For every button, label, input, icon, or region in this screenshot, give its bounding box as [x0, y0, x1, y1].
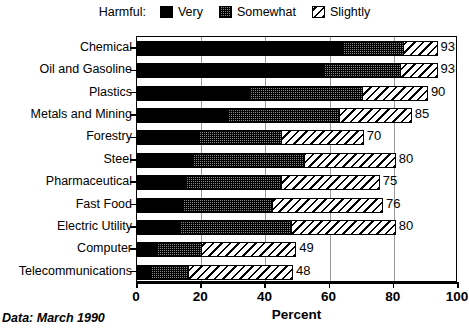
segment-slightly[interactable]	[305, 154, 395, 167]
segment-very[interactable]	[138, 243, 157, 256]
category-label: Steel	[2, 148, 132, 170]
bar-row	[137, 171, 456, 193]
category-label: Plastics	[2, 81, 132, 103]
category-label: Telecommunications	[2, 260, 132, 282]
legend-entry-somewhat: Somewhat	[219, 5, 296, 19]
segment-somewhat[interactable]	[228, 109, 340, 122]
bar-row	[137, 126, 456, 148]
segment-slightly[interactable]	[282, 176, 378, 189]
bar-total-label: 80	[399, 148, 413, 170]
segment-very[interactable]	[138, 266, 151, 279]
segment-slightly[interactable]	[202, 243, 295, 256]
x-axis-title: Percent	[136, 307, 457, 322]
stacked-bar[interactable]	[137, 108, 412, 123]
segment-slightly[interactable]	[363, 87, 427, 100]
category-label: Pharmaceutical	[2, 170, 132, 192]
stacked-bar[interactable]	[137, 242, 296, 257]
category-label: Oil and Gasoline	[2, 58, 132, 80]
segment-very[interactable]	[138, 109, 228, 122]
x-axis-line	[136, 282, 457, 284]
segment-slightly[interactable]	[189, 266, 292, 279]
segment-very[interactable]	[138, 199, 183, 212]
category-label: Electric Utility	[2, 215, 132, 237]
segment-slightly[interactable]	[292, 221, 395, 234]
segment-somewhat[interactable]	[199, 131, 282, 144]
segment-somewhat[interactable]	[193, 154, 305, 167]
segment-slightly[interactable]	[340, 109, 411, 122]
segment-very[interactable]	[138, 64, 324, 77]
x-tick-100	[457, 282, 459, 288]
category-label: Metals and Mining	[2, 103, 132, 125]
segment-somewhat[interactable]	[157, 243, 202, 256]
bar-total-label: 93	[441, 36, 455, 58]
gray-stipple-swatch-icon	[219, 6, 232, 18]
x-tick-label: 60	[321, 289, 336, 304]
bar-row	[137, 82, 456, 104]
segment-somewhat[interactable]	[250, 87, 362, 100]
segment-slightly[interactable]	[273, 199, 382, 212]
bar-row	[137, 104, 456, 126]
x-tick-label: 20	[193, 289, 208, 304]
bar-total-label: 70	[367, 125, 381, 147]
bar-row	[137, 59, 456, 81]
x-tick-label: 100	[446, 289, 469, 304]
legend-entry-slightly: Slightly	[312, 5, 370, 19]
category-label: Computer	[2, 237, 132, 259]
x-tick-label: 80	[385, 289, 400, 304]
segment-very[interactable]	[138, 131, 199, 144]
stacked-bar[interactable]	[137, 153, 396, 168]
legend-label-somewhat: Somewhat	[237, 5, 296, 19]
segment-slightly[interactable]	[404, 42, 436, 55]
stacked-bar-chart: ChemicalOil and GasolinePlasticsMetals a…	[0, 24, 469, 299]
bar-total-label: 49	[299, 237, 313, 259]
segment-very[interactable]	[138, 42, 343, 55]
bar-total-label: 75	[383, 170, 397, 192]
x-tick-label: 40	[257, 289, 272, 304]
x-tick-40	[264, 282, 266, 288]
solid-black-swatch-icon	[160, 6, 173, 18]
bar-row	[137, 238, 456, 260]
category-label: Forestry	[2, 125, 132, 147]
bar-total-label: 76	[386, 193, 400, 215]
source-note: Data: March 1990	[2, 311, 105, 325]
segment-very[interactable]	[138, 154, 193, 167]
bar-total-label: 48	[296, 260, 310, 282]
stacked-bar[interactable]	[137, 130, 364, 145]
segment-somewhat[interactable]	[183, 199, 273, 212]
segment-somewhat[interactable]	[151, 266, 190, 279]
stacked-bar[interactable]	[137, 41, 438, 56]
legend-label-slightly: Slightly	[330, 5, 370, 19]
segment-somewhat[interactable]	[324, 64, 401, 77]
stacked-bar[interactable]	[137, 198, 383, 213]
segment-slightly[interactable]	[282, 131, 362, 144]
stacked-bar[interactable]	[137, 220, 396, 235]
x-tick-label: 0	[132, 289, 140, 304]
x-tick-0	[136, 282, 138, 288]
segment-very[interactable]	[138, 87, 250, 100]
legend-label-very: Very	[178, 5, 203, 19]
stacked-bar[interactable]	[137, 265, 293, 280]
bar-row	[137, 37, 456, 59]
segment-somewhat[interactable]	[180, 221, 292, 234]
bar-total-label: 93	[441, 58, 455, 80]
category-axis: ChemicalOil and GasolinePlasticsMetals a…	[0, 36, 132, 282]
segment-slightly[interactable]	[401, 64, 436, 77]
segment-somewhat[interactable]	[186, 176, 282, 189]
category-label: Chemical	[2, 36, 132, 58]
legend-title: Harmful:	[99, 5, 146, 19]
bar-row	[137, 194, 456, 216]
category-label: Fast Food	[2, 193, 132, 215]
bar-total-label: 80	[399, 215, 413, 237]
stacked-bar[interactable]	[137, 175, 380, 190]
x-tick-60	[329, 282, 331, 288]
segment-very[interactable]	[138, 221, 180, 234]
bar-total-label: 90	[431, 81, 445, 103]
stacked-bar[interactable]	[137, 63, 438, 78]
segment-somewhat[interactable]	[343, 42, 404, 55]
segment-very[interactable]	[138, 176, 186, 189]
bar-total-label: 85	[415, 103, 429, 125]
legend-entry-very: Very	[160, 5, 203, 19]
x-tick-20	[200, 282, 202, 288]
diagonal-hatch-swatch-icon	[312, 6, 325, 18]
stacked-bar[interactable]	[137, 86, 428, 101]
